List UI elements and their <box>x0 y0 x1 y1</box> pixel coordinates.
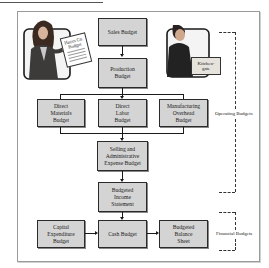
node-direct-materials-budget: Direct Materials Budget <box>37 99 85 127</box>
financial-bracket-bottom <box>219 250 235 251</box>
top-rule <box>0 2 103 3</box>
arrow-head <box>120 96 124 99</box>
node-direct-labor-budget: Direct Labor Budget <box>98 99 147 127</box>
connector-labor-to-selling <box>122 127 123 138</box>
node-production-budget: Production Budget <box>98 58 147 88</box>
node-manufacturing-overhead-budget: Manufacturing Overhead Budget <box>159 99 208 127</box>
connector-branch-left <box>60 94 61 99</box>
financial-bracket-side-lower <box>235 239 236 250</box>
financial-budgets-label: Financial Budgets <box>216 231 252 236</box>
operating-bracket-bottom <box>219 192 235 193</box>
operating-bracket-side-upper <box>235 32 236 109</box>
node-cash-budget: Cash Budget <box>98 220 147 248</box>
operating-budgets-label: Operating Budgets <box>215 111 253 116</box>
kitchen-gate-box-label: Kitchen- gate <box>198 61 215 72</box>
arrow-head <box>120 217 124 220</box>
connector-branch-right <box>183 94 184 99</box>
arrow-head <box>156 231 159 235</box>
arrow-head <box>120 54 124 57</box>
arrow-head <box>95 231 98 235</box>
connector-capital-to-cash <box>85 233 95 234</box>
operating-bracket-side-lower <box>235 119 236 192</box>
kitchen-gate-box: Kitchen- gate <box>191 57 221 75</box>
node-budgeted-balance-sheet: Budgeted Balance Sheet <box>159 220 208 248</box>
arrow-head <box>120 138 124 141</box>
node-capital-expenditure-budget: Capital Expenditure Budget <box>37 220 85 248</box>
node-budgeted-income-statement: Budgeted Income Statement <box>98 182 147 212</box>
node-selling-admin-expense-budget: Selling and Administrative Expense Budge… <box>97 141 148 171</box>
arrow-head <box>120 179 124 182</box>
operating-bracket-top <box>219 32 235 33</box>
financial-bracket-side-upper <box>235 212 236 230</box>
node-sales-budget: Sales Budget <box>98 18 147 46</box>
financial-bracket-top <box>219 212 235 213</box>
